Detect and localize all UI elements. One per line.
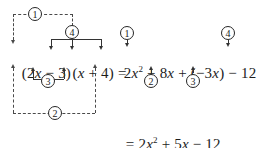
step4-fan-rail	[51, 39, 101, 40]
marker-3-stem	[193, 69, 194, 73]
final-minus-twelve: − 12	[189, 136, 221, 148]
rhs-expression: 2x2 + 8x + (−3x) − 12	[108, 51, 256, 96]
step3-right-arrowhead	[62, 67, 66, 71]
step4-branch-c-arrowhead	[99, 46, 103, 50]
step2-left-riser	[13, 68, 14, 113]
step1-left-arrowhead	[11, 40, 15, 44]
marker-4-arrowhead	[226, 43, 230, 47]
step3-left-riser	[33, 70, 34, 79]
step2-right-riser	[95, 68, 96, 113]
step2-circle-left: 2	[48, 106, 62, 120]
step1-left-drop	[13, 14, 14, 40]
step1-top-rail	[13, 14, 73, 15]
step4-branch-a-arrowhead	[49, 46, 53, 50]
marker-1-arrowhead	[125, 43, 129, 47]
rhs-term-1: 2	[124, 65, 132, 81]
final-x-sq: x	[146, 136, 153, 148]
step4-branch-b-arrowhead	[70, 46, 74, 50]
step4-circle-left: 4	[65, 25, 79, 39]
final-x: x	[182, 136, 189, 148]
marker-3-circle: 3	[186, 74, 200, 88]
step3-circle-left: 3	[41, 74, 55, 88]
lhs-x2: x	[78, 65, 85, 81]
marker-2-stem	[151, 69, 152, 73]
step2-right-arrowhead	[93, 64, 97, 68]
final-equals: = 2	[126, 136, 146, 148]
step3-right-riser	[64, 70, 65, 79]
final-expression: = 2x2 + 5x − 12	[110, 122, 221, 148]
marker-4-circle: 4	[221, 26, 235, 40]
marker-2-circle: 2	[144, 74, 158, 88]
step1-circle-left: 1	[28, 7, 42, 21]
rhs-minus-twelve: ) − 12	[219, 65, 256, 81]
final-plus: + 5	[158, 136, 182, 148]
figure-canvas: 1 4 (2x − 3) (x + 4) = 3 2 2x2 + 8x + (−…	[0, 0, 256, 148]
marker-1-circle: 1	[120, 26, 134, 40]
